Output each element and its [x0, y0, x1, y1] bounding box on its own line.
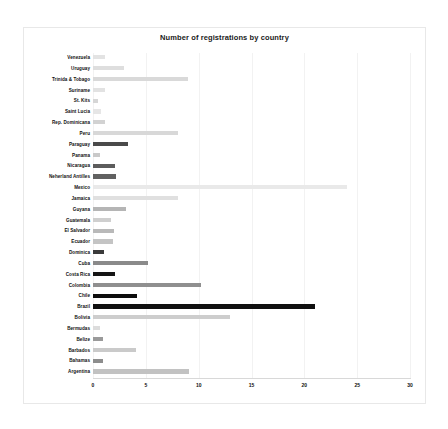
- y-axis-tick-label: Peru: [80, 129, 90, 140]
- bar-row: [93, 259, 410, 270]
- y-axis-tick-label: Guatemala: [66, 216, 90, 227]
- bar-row: [93, 335, 410, 346]
- bar-row: [93, 356, 410, 367]
- bar: [93, 348, 136, 352]
- bar: [93, 272, 115, 276]
- x-axis-tick-label: 30: [407, 382, 413, 388]
- bar-row: [93, 183, 410, 194]
- y-axis-tick-label: Ecuador: [71, 237, 90, 248]
- bar-series: [93, 53, 410, 378]
- bar-row: [93, 75, 410, 86]
- x-axis-tick-label: 0: [92, 382, 95, 388]
- y-axis-tick-label: Paraguay: [69, 140, 90, 151]
- y-axis-tick-label: Bolivia: [75, 313, 90, 324]
- bar-row: [93, 96, 410, 107]
- y-axis-tick-label: Bermudas: [67, 324, 90, 335]
- bar-row: [93, 205, 410, 216]
- y-axis-tick-label: Neherland Antilles: [49, 172, 90, 183]
- y-axis-tick-label: Saint Lucia: [65, 107, 90, 118]
- y-axis-tick-label: St. Kits: [74, 96, 90, 107]
- y-axis-tick-label: Venezuela: [67, 53, 90, 64]
- y-axis-tick-label: El Salvador: [64, 226, 90, 237]
- bar: [93, 196, 178, 200]
- bar: [93, 109, 101, 113]
- bar-row: [93, 107, 410, 118]
- x-axis-tick-label: 5: [144, 382, 147, 388]
- y-axis-tick-label: Belize: [76, 335, 90, 346]
- bar: [93, 207, 126, 211]
- y-axis-tick-label: Colombia: [69, 281, 90, 292]
- x-axis-tick-label: 15: [249, 382, 255, 388]
- y-axis-tick-label: Uruguay: [71, 64, 90, 75]
- bar: [93, 174, 116, 178]
- chart-frame: Number of registrations by country Venez…: [23, 27, 426, 404]
- bar: [93, 304, 315, 308]
- bar: [93, 164, 115, 168]
- bar: [93, 315, 230, 319]
- y-axis-tick-label: Guyana: [73, 205, 90, 216]
- bar-row: [93, 291, 410, 302]
- bar-row: [93, 302, 410, 313]
- bar: [93, 77, 188, 81]
- bar: [93, 120, 105, 124]
- bar: [93, 250, 104, 254]
- y-axis-tick-label: Mexico: [74, 183, 90, 194]
- bar: [93, 88, 105, 92]
- bar-row: [93, 118, 410, 129]
- gridline-30: [410, 53, 411, 378]
- y-axis-tick-label: Brazil: [77, 302, 90, 313]
- y-axis-tick-label: Chile: [79, 291, 90, 302]
- bar: [93, 229, 114, 233]
- chart-title: Number of registrations by country: [24, 33, 425, 42]
- bar: [93, 142, 128, 146]
- bar: [93, 153, 100, 157]
- y-axis-labels: VenezuelaUruguayTrinida & TobagoSuriname…: [24, 53, 93, 378]
- y-axis-tick-label: Barbados: [68, 346, 90, 357]
- bar-row: [93, 324, 410, 335]
- x-axis-tick-label: 20: [302, 382, 308, 388]
- bar: [93, 261, 148, 265]
- x-axis-labels: 051015202530: [93, 382, 411, 396]
- bar-row: [93, 161, 410, 172]
- bar: [93, 218, 111, 222]
- y-axis-tick-label: Bahamas: [69, 356, 90, 367]
- y-axis-tick-label: Dominica: [69, 248, 90, 259]
- x-axis-tick-label: 25: [354, 382, 360, 388]
- bar: [93, 359, 103, 363]
- y-axis-tick-label: Suriname: [69, 86, 90, 97]
- bar: [93, 185, 347, 189]
- bar: [93, 99, 98, 103]
- bar-row: [93, 172, 410, 183]
- bar: [93, 337, 103, 341]
- bar: [93, 66, 124, 70]
- bar-row: [93, 237, 410, 248]
- bar-row: [93, 64, 410, 75]
- x-axis-tick-label: 10: [196, 382, 202, 388]
- y-axis-tick-label: Nicaragua: [67, 161, 90, 172]
- bar-row: [93, 313, 410, 324]
- bar-row: [93, 216, 410, 227]
- x-axis-line: [93, 378, 411, 379]
- y-axis-tick-label: Argentina: [68, 367, 90, 378]
- bar-row: [93, 281, 410, 292]
- bar-row: [93, 346, 410, 357]
- bar: [93, 369, 189, 373]
- bar-row: [93, 194, 410, 205]
- bar-row: [93, 248, 410, 259]
- bar: [93, 326, 100, 330]
- bar: [93, 55, 105, 59]
- y-axis-tick-label: Costa Rica: [66, 270, 90, 281]
- y-axis-tick-label: Cuba: [78, 259, 90, 270]
- bar: [93, 294, 137, 298]
- bar-row: [93, 86, 410, 97]
- bar: [93, 283, 201, 287]
- bar-row: [93, 226, 410, 237]
- bar-row: [93, 140, 410, 151]
- bar-row: [93, 367, 410, 378]
- bar-row: [93, 53, 410, 64]
- plot-area: [93, 53, 410, 378]
- y-axis-tick-label: Rep. Dominicana: [52, 118, 90, 129]
- bar: [93, 131, 178, 135]
- y-axis-tick-label: Trinida & Tobago: [52, 75, 90, 86]
- y-axis-tick-label: Panama: [72, 151, 90, 162]
